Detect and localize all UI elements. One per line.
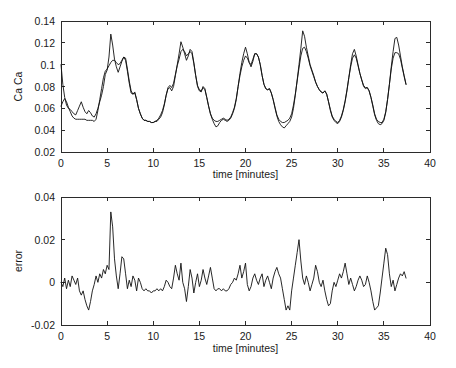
bottom-axis-ticks — [61, 197, 430, 325]
figure-svg: 0510152025303540 0.020.040.060.080.10.12… — [0, 0, 456, 368]
top-axes-frame — [61, 21, 430, 152]
x-tick-label: 35 — [378, 157, 390, 169]
top-y-tick-labels: 0.020.040.060.080.10.120.14 — [35, 15, 56, 158]
y-tick-label: 0.04 — [35, 191, 56, 203]
bottom-y-tick-labels: -0.0200.020.04 — [31, 191, 55, 331]
x-tick-label: 0 — [58, 330, 64, 342]
top-y-axis-label: Ca Ca — [12, 71, 24, 101]
x-tick-label: 15 — [194, 330, 206, 342]
x-tick-label: 35 — [378, 330, 390, 342]
y-tick-label: 0.12 — [35, 37, 56, 49]
bottom-x-tick-labels: 0510152025303540 — [58, 330, 436, 342]
bottom-axes-frame — [61, 197, 430, 325]
top-series-measured — [61, 31, 406, 128]
bottom-panel: 0510152025303540 -0.0200.020.04 time [mi… — [12, 191, 436, 354]
x-tick-label: 40 — [424, 330, 436, 342]
y-tick-label: 0.06 — [35, 102, 56, 114]
bottom-x-axis-label: time [minutes] — [213, 342, 278, 354]
x-tick-label: 10 — [147, 157, 159, 169]
y-tick-label: 0.04 — [35, 124, 56, 136]
y-tick-label: -0.02 — [31, 319, 55, 331]
y-tick-label: 0.02 — [35, 146, 56, 158]
figure-container: 0510152025303540 0.020.040.060.080.10.12… — [0, 0, 456, 368]
x-tick-label: 5 — [104, 157, 110, 169]
top-panel: 0510152025303540 0.020.040.060.080.10.12… — [12, 15, 436, 180]
x-tick-label: 10 — [147, 330, 159, 342]
y-tick-label: 0.14 — [35, 15, 56, 27]
y-tick-label: 0.02 — [35, 234, 56, 246]
y-tick-label: 0.08 — [35, 81, 56, 93]
x-tick-label: 15 — [194, 157, 206, 169]
top-x-axis-label: time [minutes] — [213, 168, 278, 180]
x-tick-label: 5 — [104, 330, 110, 342]
x-tick-label: 30 — [332, 330, 344, 342]
x-tick-label: 25 — [286, 330, 298, 342]
top-axis-ticks — [61, 21, 430, 152]
bottom-series-error — [61, 212, 406, 310]
top-series-model — [61, 47, 406, 122]
x-tick-label: 30 — [332, 157, 344, 169]
x-tick-label: 20 — [240, 330, 252, 342]
x-tick-label: 40 — [424, 157, 436, 169]
x-tick-label: 0 — [58, 157, 64, 169]
x-tick-label: 25 — [286, 157, 298, 169]
bottom-y-axis-label: error — [12, 249, 24, 272]
y-tick-label: 0.1 — [40, 59, 55, 71]
y-tick-label: 0 — [49, 276, 55, 288]
